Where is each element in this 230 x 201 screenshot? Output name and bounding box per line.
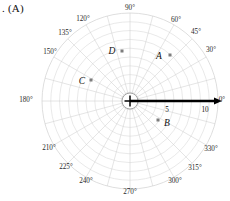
polar-figure: . (A) 0°30°45°60°90°120°135°150°180°210°… [0,0,230,201]
angle-label-60: 60° [171,16,181,24]
data-point-label-C: C [79,76,85,86]
data-point-label-D: D [109,46,116,56]
angle-label-0: 0° [219,96,225,104]
angle-label-45: 45° [191,28,201,36]
radial-label-10: 10 [201,106,208,114]
data-point-marker-B[interactable] [157,119,160,122]
radial-label-5: 5 [165,106,169,114]
angle-label-315: 315° [188,164,202,172]
angle-label-225: 225° [59,163,73,171]
angle-label-330: 330° [204,145,218,153]
angle-label-150: 150° [43,48,57,56]
angle-label-270: 270° [123,188,137,196]
data-point-label-A: A [156,51,162,61]
data-point-label-B: B [164,118,170,128]
angle-label-210: 210° [42,144,56,152]
data-point-marker-D[interactable] [121,50,124,53]
angle-label-120: 120° [76,15,90,23]
data-point-marker-C[interactable] [90,79,93,82]
zero-degree-axis-arrow [130,97,222,104]
angle-label-240: 240° [79,177,93,185]
angle-label-135: 135° [58,29,72,37]
angle-label-300: 300° [168,177,182,185]
angle-label-30: 30° [206,46,216,54]
data-point-marker-A[interactable] [169,54,172,57]
angle-label-90: 90° [125,4,135,12]
angle-label-180: 180° [19,96,33,104]
